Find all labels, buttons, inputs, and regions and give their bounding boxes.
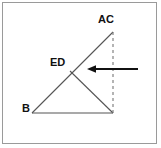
vertex-label-b: B xyxy=(22,103,30,114)
diagram-canvas: AC ED B xyxy=(0,0,161,148)
geometry-figure xyxy=(0,0,161,148)
vertex-label-ac: AC xyxy=(98,14,114,25)
force-arrow xyxy=(87,65,138,73)
arrow-head-icon xyxy=(87,65,96,73)
segment-ed-to-c xyxy=(70,71,113,113)
vertex-label-ed: ED xyxy=(50,57,65,68)
